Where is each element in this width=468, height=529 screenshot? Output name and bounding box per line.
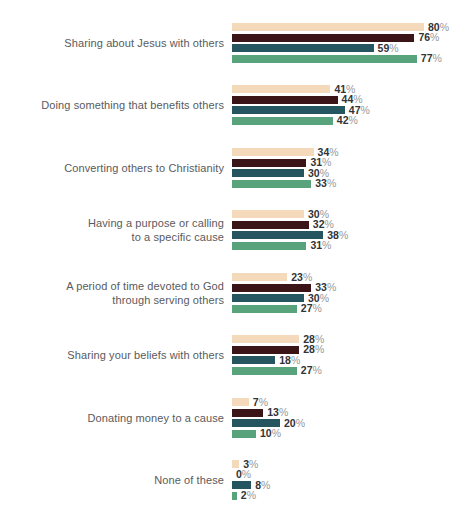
- bar-series-4: [232, 430, 256, 438]
- bar-series-1: [232, 148, 314, 156]
- value-label: 28%: [303, 345, 324, 354]
- value-number: 10: [260, 427, 272, 439]
- bar-group: 3%0%8%2%: [232, 460, 270, 500]
- value-label: 42%: [337, 116, 358, 125]
- category-group: Converting others to Christianity34%31%3…: [0, 148, 468, 188]
- percent-sign: %: [360, 104, 369, 116]
- bar-series-2: [232, 34, 414, 42]
- bar-row: 80%: [232, 23, 449, 31]
- bar-series-1: [232, 23, 424, 31]
- bar-row: 13%: [232, 409, 305, 417]
- bar-series-4: [232, 180, 311, 188]
- category-label: Sharing about Jesus with others: [0, 36, 224, 50]
- bar-row: 33%: [232, 180, 339, 188]
- bar-series-2: [232, 159, 306, 167]
- bar-row: 44%: [232, 96, 370, 104]
- category-group: Sharing about Jesus with others80%76%59%…: [0, 23, 468, 63]
- percent-sign: %: [312, 364, 321, 376]
- value-number: 31: [310, 239, 322, 251]
- value-number: 77: [421, 52, 433, 64]
- bar-series-2: [232, 284, 311, 292]
- category-label: None of these: [0, 473, 224, 487]
- value-label: 33%: [315, 179, 336, 188]
- bar-row: 31%: [232, 242, 348, 250]
- value-number: 20: [284, 417, 296, 429]
- category-group: Donating money to a cause7%13%20%10%: [0, 398, 468, 438]
- value-number: 32: [313, 218, 325, 230]
- percent-sign: %: [303, 271, 312, 283]
- percent-sign: %: [348, 114, 357, 126]
- bar-series-1: [232, 335, 299, 343]
- percent-sign: %: [247, 489, 256, 501]
- bar-series-3: [232, 356, 275, 364]
- value-label: 20%: [284, 419, 305, 428]
- bar-row: 33%: [232, 284, 336, 292]
- value-label: 76%: [418, 33, 439, 42]
- bar-series-2: [232, 409, 263, 417]
- bar-row: 28%: [232, 346, 324, 354]
- value-label: 27%: [301, 366, 322, 375]
- category-label: Sharing your beliefs with others: [0, 348, 224, 362]
- bar-series-3: [232, 294, 304, 302]
- percent-sign: %: [327, 177, 336, 189]
- percent-sign: %: [440, 21, 449, 33]
- value-label: 59%: [378, 44, 399, 53]
- value-label: 8%: [255, 481, 270, 490]
- bar-row: 76%: [232, 34, 449, 42]
- value-number: 28: [303, 343, 315, 355]
- percent-sign: %: [272, 427, 281, 439]
- bar-row: 31%: [232, 159, 339, 167]
- bar-series-3: [232, 419, 280, 427]
- bar-row: 27%: [232, 305, 336, 313]
- bar-series-3: [232, 106, 345, 114]
- value-label: 7%: [253, 398, 268, 407]
- value-number: 42: [337, 114, 349, 126]
- percent-sign: %: [291, 354, 300, 366]
- bar-series-4: [232, 242, 306, 250]
- bar-series-2: [232, 346, 299, 354]
- bar-row: 28%: [232, 335, 324, 343]
- bar-group: 41%44%47%42%: [232, 85, 370, 125]
- bar-row: 30%: [232, 210, 348, 218]
- bar-row: 10%: [232, 430, 305, 438]
- bar-row: 77%: [232, 55, 449, 63]
- bar-row: 47%: [232, 106, 370, 114]
- category-label: Converting others to Christianity: [0, 161, 224, 175]
- percent-sign: %: [432, 52, 441, 64]
- percent-sign: %: [315, 343, 324, 355]
- bar-series-4: [232, 492, 237, 500]
- bar-group: 7%13%20%10%: [232, 398, 305, 438]
- bar-group: 80%76%59%77%: [232, 23, 449, 63]
- value-label: 27%: [301, 304, 322, 313]
- bar-group: 28%28%18%27%: [232, 335, 324, 375]
- value-number: 33: [315, 177, 327, 189]
- percent-sign: %: [430, 31, 439, 43]
- bar-series-1: [232, 85, 330, 93]
- bar-series-1: [232, 460, 239, 468]
- bar-group: 34%31%30%33%: [232, 148, 339, 188]
- category-label: A period of time devoted to God through …: [0, 279, 224, 307]
- bar-row: 27%: [232, 367, 324, 375]
- value-label: 10%: [260, 429, 281, 438]
- bar-series-4: [232, 305, 297, 313]
- category-label: Having a purpose or calling to a specifi…: [0, 216, 224, 244]
- bar-series-4: [232, 55, 417, 63]
- percent-sign: %: [312, 302, 321, 314]
- bar-row: 41%: [232, 85, 370, 93]
- bar-series-4: [232, 367, 297, 375]
- bar-series-3: [232, 169, 304, 177]
- value-label: 0%: [236, 470, 251, 479]
- value-number: 13: [267, 406, 279, 418]
- category-group: Doing something that benefits others41%4…: [0, 85, 468, 125]
- bar-series-3: [232, 231, 323, 239]
- percent-sign: %: [261, 479, 270, 491]
- bar-group: 23%33%30%27%: [232, 273, 336, 313]
- bar-series-3: [232, 44, 374, 52]
- bar-row: 7%: [232, 398, 305, 406]
- bar-group: 30%32%38%31%: [232, 210, 348, 250]
- category-group: Sharing your beliefs with others28%28%18…: [0, 335, 468, 375]
- value-label: 2%: [241, 491, 256, 500]
- bar-row: 2%: [232, 492, 270, 500]
- category-label: Doing something that benefits others: [0, 98, 224, 112]
- value-number: 27: [301, 302, 313, 314]
